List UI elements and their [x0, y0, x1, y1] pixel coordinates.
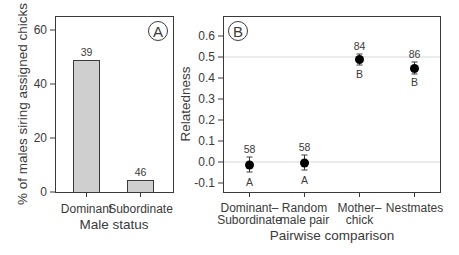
- x-category-label: male pair: [280, 213, 329, 227]
- bar-subordinate: [128, 181, 154, 193]
- sample-size-label: 86: [409, 48, 421, 60]
- y-tick-label: 40: [34, 77, 48, 91]
- panel-a-y-axis: 0 20 40 60: [34, 23, 55, 199]
- panel-letter-b: B: [233, 23, 243, 40]
- group-letter: A: [246, 176, 253, 188]
- group-letter: B: [356, 68, 363, 80]
- sample-size-label: 84: [354, 40, 366, 52]
- y-tick-label: 0.0: [198, 155, 215, 169]
- y-tick-label: 0: [40, 185, 47, 199]
- panel-letter-a: A: [153, 23, 163, 40]
- x-category-label: Nestmates: [386, 201, 443, 215]
- panel-a: 0 20 40 60 % of males siring assigned ch…: [15, 3, 174, 232]
- sample-size-label: 46: [135, 166, 147, 178]
- panel-b: -0.1 0.0 0.1 0.2 0.3 0.4 0.5 0.6 Related…: [178, 17, 443, 244]
- panel-a-y-axis-title: % of males siring assigned chicks: [15, 3, 30, 205]
- group-letter: B: [411, 76, 418, 88]
- y-tick-label: -0.1: [194, 176, 215, 190]
- data-point-dominant-subordinate: 58 A: [244, 143, 256, 188]
- data-point-nestmates: 86 B: [409, 48, 421, 88]
- y-tick-label: 0.1: [198, 134, 215, 148]
- y-tick-label: 60: [34, 23, 48, 37]
- panel-b-y-axis-title: Relatedness: [178, 66, 193, 141]
- sample-size-label: 58: [244, 143, 256, 155]
- figure: 0 20 40 60 % of males siring assigned ch…: [0, 0, 459, 255]
- y-tick-label: 0.2: [198, 113, 215, 127]
- panel-a-x-axis-title: Male status: [79, 217, 148, 232]
- y-tick-label: 20: [34, 131, 48, 145]
- x-category-label: chick: [346, 213, 374, 227]
- x-category-label: Dominant: [61, 202, 113, 216]
- y-tick-label: 0.5: [198, 50, 215, 64]
- panel-b-x-axis-title: Pairwise comparison: [270, 228, 395, 243]
- y-tick-label: 0.3: [198, 92, 215, 106]
- data-point-mother-chick: 84 B: [354, 40, 366, 80]
- y-tick-label: 0.6: [198, 29, 215, 43]
- x-category-label: Subordinate: [108, 202, 173, 216]
- panel-b-y-axis: -0.1 0.0 0.1 0.2 0.3 0.4 0.5 0.6: [194, 29, 223, 190]
- data-point-random-male-pair: 58 A: [299, 141, 311, 186]
- bar-dominant: [74, 61, 100, 193]
- x-category-label: Subordinate: [217, 213, 282, 227]
- sample-size-label: 58: [299, 141, 311, 153]
- sample-size-label: 39: [81, 46, 93, 58]
- y-tick-label: 0.4: [198, 71, 215, 85]
- panel-b-frame: [224, 17, 441, 193]
- group-letter: A: [301, 174, 308, 186]
